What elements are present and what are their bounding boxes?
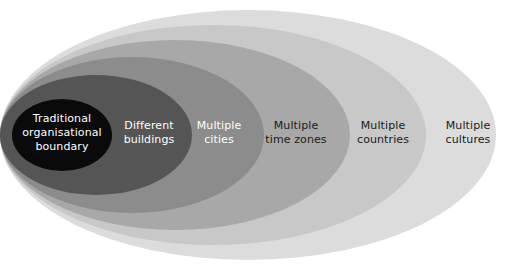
ellipse-traditional-organisational-boundary xyxy=(12,99,112,171)
nested-ellipses-graphic xyxy=(0,0,510,271)
venn-diagram: Traditional organisational boundary Diff… xyxy=(0,0,510,271)
